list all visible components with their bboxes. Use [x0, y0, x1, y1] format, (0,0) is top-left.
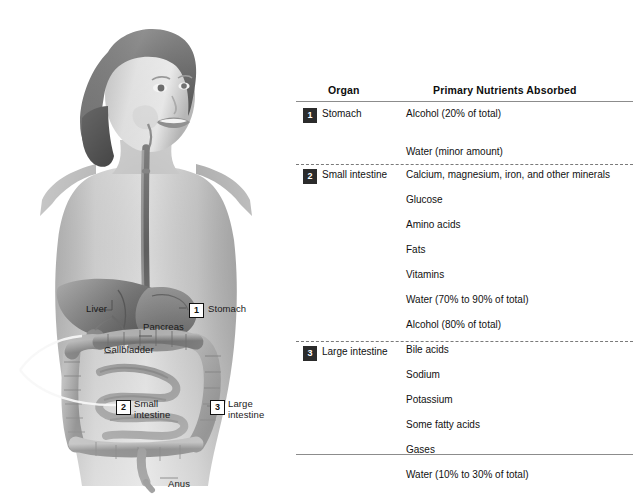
table-organ-small-intestine: Small intestine [322, 169, 387, 180]
figure-label-anus: Anus [168, 479, 190, 490]
table-row-separator-1 [296, 164, 633, 165]
table-nutrient-item: Some fatty acids [406, 419, 480, 430]
figure-label-large-intestine: Large intestine [228, 399, 264, 420]
table-nutrient-item: Water (70% to 90% of total) [406, 294, 528, 305]
table-header-rule [296, 101, 633, 102]
page-root: Liver Pancreas Gallbladder 1 Stomach 2 S… [0, 0, 637, 501]
table-organ-stomach: Stomach [322, 108, 361, 119]
table-badge-small-intestine: 2 [303, 169, 317, 184]
table-badge-stomach: 1 [303, 108, 317, 123]
nutrient-absorption-table: Organ Primary Nutrients Absorbed 1 Stoma… [296, 0, 637, 501]
figure-label-liver: Liver [86, 304, 107, 315]
figure-label-stomach: Stomach [208, 304, 246, 315]
column-header-nutrients: Primary Nutrients Absorbed [433, 84, 577, 96]
table-nutrient-item: Fats [406, 244, 425, 255]
table-badge-large-intestine: 3 [303, 346, 317, 361]
figure-label-pancreas: Pancreas [143, 322, 184, 333]
anatomy-drawing [0, 0, 290, 501]
table-nutrient-item: Glucose [406, 194, 443, 205]
figure-badge-large-intestine: 3 [210, 400, 225, 415]
figure-label-small-intestine: Small intestine [134, 399, 170, 420]
table-nutrient-item: Sodium [406, 369, 440, 380]
table-nutrient-item: Bile acids [406, 344, 449, 355]
figure-label-gallbladder: Gallbladder [104, 345, 154, 356]
table-organ-large-intestine: Large intestine [322, 346, 388, 357]
table-nutrient-item: Gases [406, 444, 435, 455]
digestive-system-illustration: Liver Pancreas Gallbladder 1 Stomach 2 S… [0, 0, 290, 501]
table-nutrient-item: Alcohol (80% of total) [406, 319, 501, 330]
figure-badge-stomach: 1 [189, 303, 204, 318]
table-nutrient-item: Alcohol (20% of total) [406, 108, 501, 119]
figure-badge-small-intestine: 2 [116, 400, 131, 415]
table-nutrient-item: Potassium [406, 394, 453, 405]
table-nutrient-item: Water (minor amount) [406, 146, 503, 157]
table-nutrient-item: Vitamins [406, 269, 444, 280]
table-row-separator-2 [296, 341, 633, 342]
table-bottom-rule [296, 454, 633, 455]
column-header-organ: Organ [328, 84, 360, 96]
table-nutrient-item: Amino acids [406, 219, 460, 230]
table-nutrient-item: Water (10% to 30% of total) [406, 469, 528, 480]
table-nutrient-item: Calcium, magnesium, iron, and other mine… [406, 169, 610, 180]
